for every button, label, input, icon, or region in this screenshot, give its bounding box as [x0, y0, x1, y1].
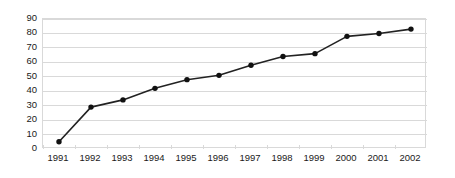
x-tick-label: 1991	[47, 152, 68, 164]
line-chart: 0102030405060708090 19911992199319941995…	[0, 0, 455, 178]
x-tick-label: 1996	[207, 152, 228, 164]
data-point-marker	[88, 104, 93, 109]
plot-area	[42, 18, 426, 148]
x-tick-label: 2000	[335, 152, 356, 164]
y-tick-label: 20	[26, 114, 37, 124]
y-tick-label: 80	[26, 27, 37, 37]
data-point-marker	[216, 73, 221, 78]
x-tick-label: 1992	[79, 152, 100, 164]
y-tick-label: 60	[26, 56, 37, 66]
data-point-marker	[408, 26, 413, 31]
x-tick-label: 1994	[143, 152, 164, 164]
series-plot	[43, 19, 427, 149]
data-point-marker	[344, 34, 349, 39]
data-point-marker	[184, 77, 189, 82]
data-point-marker	[120, 97, 125, 102]
series-line	[59, 29, 411, 142]
data-point-marker	[312, 51, 317, 56]
y-tick-label: 50	[26, 71, 37, 81]
y-tick-label: 0	[32, 143, 37, 153]
x-tick-label: 2002	[399, 152, 420, 164]
x-tick-label: 1998	[271, 152, 292, 164]
data-point-marker	[280, 54, 285, 59]
x-tick-label: 1999	[303, 152, 324, 164]
y-axis: 0102030405060708090	[0, 0, 42, 178]
x-tick-label: 2001	[367, 152, 388, 164]
x-tick-label: 1997	[239, 152, 260, 164]
x-tick-label: 1993	[111, 152, 132, 164]
data-point-marker	[152, 86, 157, 91]
y-tick-label: 90	[26, 13, 37, 23]
data-point-marker	[56, 139, 61, 144]
y-tick-label: 40	[26, 85, 37, 95]
y-tick-label: 30	[26, 100, 37, 110]
y-tick-label: 10	[26, 129, 37, 139]
x-axis: 1991199219931994199519961997199819992000…	[42, 152, 426, 170]
data-point-marker	[376, 31, 381, 36]
data-point-marker	[248, 63, 253, 68]
y-tick-label: 70	[26, 42, 37, 52]
x-tick-label: 1995	[175, 152, 196, 164]
